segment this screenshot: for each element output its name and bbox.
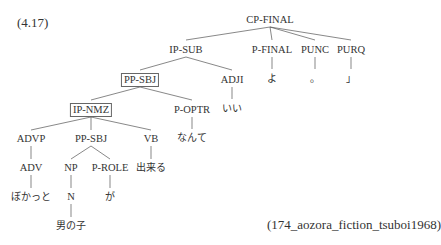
source-citation: (174_aozora_fiction_tsuboi1968): [267, 217, 441, 233]
node-adji: ADJI: [221, 74, 244, 86]
node-pp-sbj-outer: PP-SBJ: [121, 73, 159, 87]
leaf-ii: いい: [222, 103, 242, 115]
node-pp-sbj-inner: PP-SBJ: [75, 133, 107, 145]
node-p-optr: P-OPTR: [174, 104, 210, 116]
node-adv: ADV: [20, 162, 43, 174]
leaf-close-quote: 」: [346, 73, 356, 85]
node-ip-sub: IP-SUB: [169, 44, 202, 56]
node-purq: PURQ: [337, 44, 365, 56]
node-advp: ADVP: [17, 133, 46, 145]
leaf-dekiru: 出来る: [136, 162, 166, 174]
node-p-role: P-ROLE: [92, 162, 129, 174]
node-p-final: P-FINAL: [252, 44, 292, 56]
node-vb: VB: [144, 133, 159, 145]
node-punc: PUNC: [301, 44, 329, 56]
node-n: N: [67, 191, 75, 203]
node-ip-nmz: IP-NMZ: [70, 103, 112, 117]
node-np: NP: [64, 162, 77, 174]
leaf-yo: よ: [267, 73, 277, 85]
leaf-bokatto: ぼかっと: [11, 191, 51, 203]
leaf-period: 。: [310, 73, 320, 85]
leaf-nante: なんて: [177, 132, 207, 144]
node-cp-final: CP-FINAL: [246, 14, 293, 26]
leaf-ga: が: [105, 191, 115, 203]
leaf-otokonoko: 男の子: [56, 220, 86, 232]
